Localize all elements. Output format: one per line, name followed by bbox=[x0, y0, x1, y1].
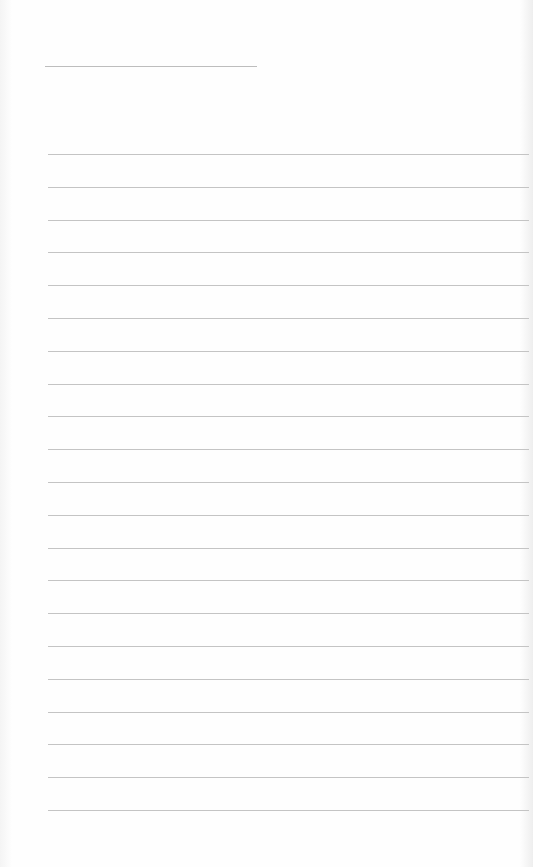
ruled-line bbox=[48, 351, 529, 352]
header-line bbox=[45, 66, 257, 67]
ruled-line bbox=[48, 580, 529, 581]
ruled-line bbox=[48, 744, 529, 745]
ruled-line bbox=[48, 646, 529, 647]
ruled-line bbox=[48, 220, 529, 221]
ruled-line bbox=[48, 187, 529, 188]
ruled-line bbox=[48, 613, 529, 614]
ruled-line bbox=[48, 482, 529, 483]
ruled-line bbox=[48, 416, 529, 417]
ruled-line bbox=[48, 318, 529, 319]
ruled-line bbox=[48, 252, 529, 253]
ruled-line bbox=[48, 548, 529, 549]
ruled-line bbox=[48, 712, 529, 713]
ruled-line bbox=[48, 515, 529, 516]
lined-paper bbox=[0, 0, 533, 867]
ruled-line bbox=[48, 679, 529, 680]
ruled-line bbox=[48, 810, 529, 811]
ruled-line bbox=[48, 154, 529, 155]
ruled-line bbox=[48, 449, 529, 450]
ruled-line bbox=[48, 384, 529, 385]
ruled-line bbox=[48, 285, 529, 286]
ruled-line bbox=[48, 777, 529, 778]
